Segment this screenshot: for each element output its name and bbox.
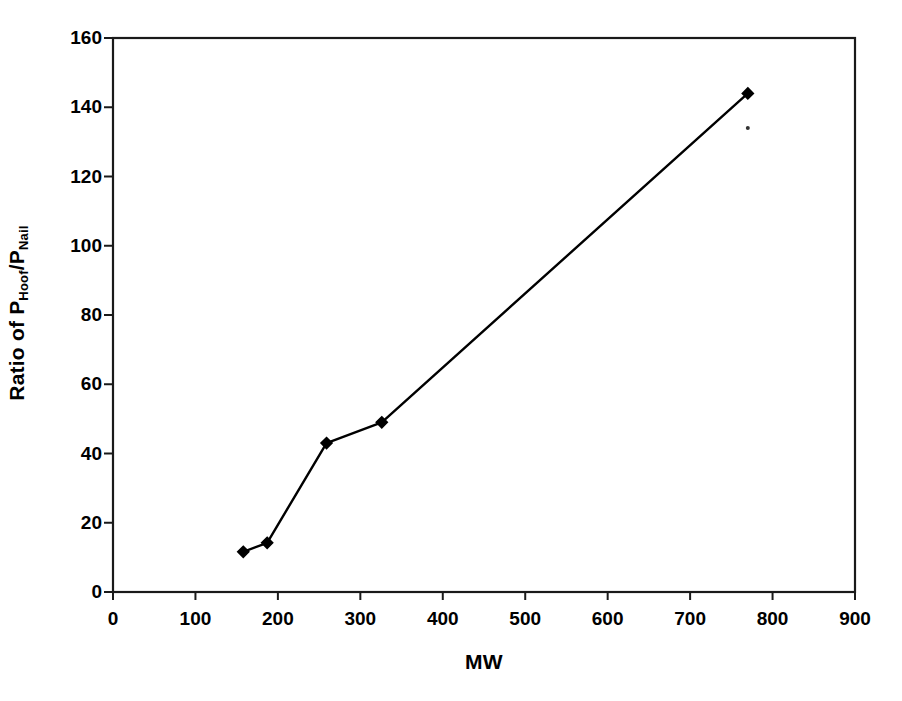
x-axis-tick-label: 700 bbox=[674, 608, 706, 630]
series-line-path bbox=[243, 93, 748, 551]
chart-annotations bbox=[746, 126, 750, 130]
data-point-marker bbox=[262, 537, 273, 548]
chart-figure: 020406080100120140160 010020030040050060… bbox=[0, 0, 902, 701]
x-axis-tick-label: 400 bbox=[427, 608, 459, 630]
x-axis-tick-label: 100 bbox=[180, 608, 212, 630]
x-axis-tick-label: 500 bbox=[509, 608, 541, 630]
stray-dot bbox=[746, 126, 750, 130]
y-axis-tick-label: 140 bbox=[40, 96, 102, 118]
data-point-marker bbox=[238, 546, 249, 557]
y-axis-title-sub-nail: Nail bbox=[16, 225, 31, 250]
x-axis-tick-label: 900 bbox=[839, 608, 871, 630]
x-axis-tick-label: 600 bbox=[592, 608, 624, 630]
x-axis-tick-label: 800 bbox=[757, 608, 789, 630]
series-line bbox=[243, 93, 748, 551]
x-axis-tick-label: 300 bbox=[344, 608, 376, 630]
y-axis-tick-label: 60 bbox=[40, 373, 102, 395]
x-axis-tick-label: 200 bbox=[262, 608, 294, 630]
y-axis-tick-label: 40 bbox=[40, 443, 102, 465]
y-axis-tick-label: 120 bbox=[40, 166, 102, 188]
data-point-marker bbox=[321, 438, 332, 449]
y-axis-tick-label: 100 bbox=[40, 235, 102, 257]
y-axis-tick-label: 160 bbox=[40, 27, 102, 49]
y-axis-tick-label: 0 bbox=[40, 581, 102, 603]
plot-frame bbox=[113, 38, 855, 592]
y-axis-tick-label: 80 bbox=[40, 304, 102, 326]
line-chart-canvas bbox=[0, 0, 902, 701]
x-axis-title: MW bbox=[113, 650, 855, 674]
y-axis-title: Ratio of PHoof/PNail bbox=[0, 36, 34, 590]
y-axis-title-text: Ratio of PHoof/PNail bbox=[5, 225, 29, 400]
x-axis-ticks bbox=[113, 592, 855, 600]
x-axis-tick-label: 0 bbox=[108, 608, 119, 630]
y-axis-tick-label: 20 bbox=[40, 512, 102, 534]
y-axis-title-sub-hoof: Hoof bbox=[16, 270, 31, 300]
plot-border bbox=[113, 38, 855, 592]
y-axis-ticks bbox=[104, 38, 113, 592]
